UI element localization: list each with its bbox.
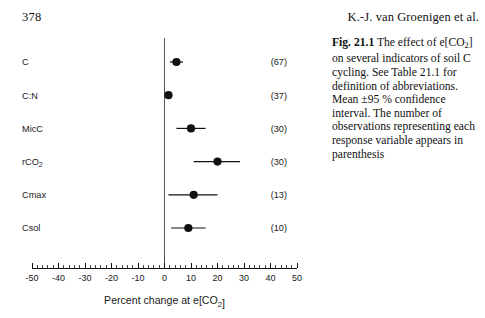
running-head-authors: K.-J. van Groenigen et al. <box>348 10 479 25</box>
observation-count-label: (37) <box>271 91 287 101</box>
x-axis-tick-label: 10 <box>186 273 196 283</box>
x-axis-tick-label: 30 <box>239 273 249 283</box>
data-row: MicC(30) <box>22 124 287 134</box>
data-row: rCO2(30) <box>22 157 287 168</box>
chart-svg: -50-40-30-20-1001020304050Percent change… <box>0 30 330 318</box>
data-row: C:N(37) <box>22 91 287 101</box>
data-row: Csol(10) <box>22 223 287 233</box>
x-axis-tick-label: -10 <box>131 273 144 283</box>
x-axis-tick-label: 40 <box>265 273 275 283</box>
data-row: C(67) <box>22 57 287 67</box>
figure-caption-label: Fig. 21.1 <box>332 36 374 49</box>
data-point-marker <box>172 58 180 66</box>
data-point-marker <box>213 158 221 166</box>
data-row: Cmax(13) <box>22 190 287 200</box>
observation-count-label: (67) <box>271 57 287 67</box>
category-label: Csol <box>22 223 40 233</box>
x-axis-tick-label: -20 <box>105 273 118 283</box>
category-label: C <box>22 57 29 67</box>
page-number: 378 <box>22 10 41 25</box>
x-axis-tick-label: 0 <box>162 273 167 283</box>
x-axis-tick-label: -50 <box>25 273 38 283</box>
observation-count-label: (30) <box>271 157 287 167</box>
data-point-marker <box>184 224 192 232</box>
figure-caption: Fig. 21.1 The effect of e[CO2] on severa… <box>332 36 482 161</box>
x-axis-tick-label: 20 <box>212 273 222 283</box>
data-point-marker <box>187 124 195 132</box>
observation-count-label: (10) <box>271 223 287 233</box>
category-label: rCO2 <box>22 157 43 168</box>
observation-count-label: (13) <box>271 190 287 200</box>
x-axis-title: Percent change at e[CO2] <box>104 294 225 309</box>
figure-caption-text: The effect of e[CO2] on several indicato… <box>332 36 475 161</box>
x-axis-tick-label: 50 <box>292 273 302 283</box>
x-axis-tick-label: -40 <box>52 273 65 283</box>
category-label: MicC <box>22 124 43 134</box>
x-axis-tick-label: -30 <box>78 273 91 283</box>
figure-chart: -50-40-30-20-1001020304050Percent change… <box>0 30 330 318</box>
observation-count-label: (30) <box>271 124 287 134</box>
data-point-marker <box>164 91 172 99</box>
category-label: Cmax <box>22 190 46 200</box>
data-point-marker <box>190 191 198 199</box>
category-label: C:N <box>22 91 38 101</box>
